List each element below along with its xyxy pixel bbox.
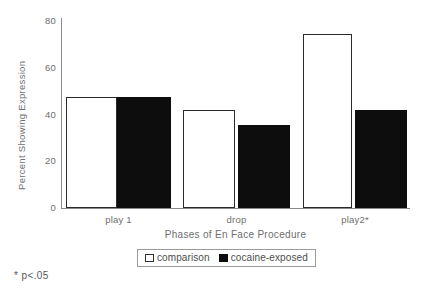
x-axis-tick-drop: drop <box>183 214 290 225</box>
white-square-icon <box>145 254 154 262</box>
black-square-icon <box>219 254 228 262</box>
bar-drop-comparison <box>183 110 235 208</box>
x-axis-tick-play2: play2* <box>303 214 407 225</box>
y-axis-tick-20: 20 <box>12 156 56 166</box>
legend-label-comparison: comparison <box>157 252 210 263</box>
x-axis-title: Phases of En Face Procedure <box>61 229 410 240</box>
y-axis-tick-labels: 80 60 40 20 0 <box>8 0 56 290</box>
bar-play2--comparison <box>303 34 352 208</box>
y-axis-tick-40: 40 <box>12 110 56 120</box>
legend-entry-cocaine-exposed: cocaine-exposed <box>219 252 308 263</box>
x-axis-line <box>61 208 410 209</box>
x-axis-tick-play-1: play 1 <box>66 214 171 225</box>
y-axis-tick-60: 60 <box>12 63 56 73</box>
bar-play-1-cocaine-exposed <box>117 97 171 208</box>
legend-entry-comparison: comparison <box>145 252 210 263</box>
bar-play-1-comparison <box>66 97 117 208</box>
y-axis-tick-80: 80 <box>12 16 56 26</box>
bar-drop-cocaine-exposed <box>238 125 290 208</box>
bar-chart-figure: Percent Showing Expression 80 60 40 20 0… <box>0 0 422 290</box>
plot-area <box>61 21 409 208</box>
legend: comparison cocaine-exposed <box>137 249 316 267</box>
legend-label-cocaine-exposed: cocaine-exposed <box>231 252 308 263</box>
significance-footnote: * p<.05 <box>14 270 49 281</box>
y-axis-tick-0: 0 <box>12 203 56 213</box>
bar-play2--cocaine-exposed <box>355 110 407 208</box>
